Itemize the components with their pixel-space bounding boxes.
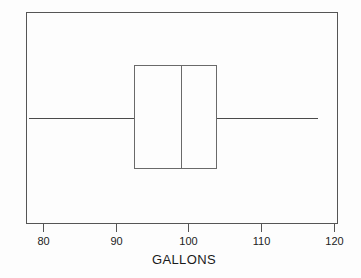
iqr-box — [135, 66, 217, 169]
tick-label-90: 90 — [110, 235, 122, 247]
boxplot-canvas: 80 90 100 110 120 GALLONS — [0, 0, 361, 278]
tick-label-110: 110 — [253, 235, 271, 247]
tick-label-80: 80 — [37, 235, 49, 247]
boxplot-figure: 80 90 100 110 120 GALLONS — [0, 0, 361, 278]
tick-label-100: 100 — [179, 235, 197, 247]
x-axis-title: GALLONS — [152, 252, 216, 267]
tick-label-120: 120 — [325, 235, 343, 247]
